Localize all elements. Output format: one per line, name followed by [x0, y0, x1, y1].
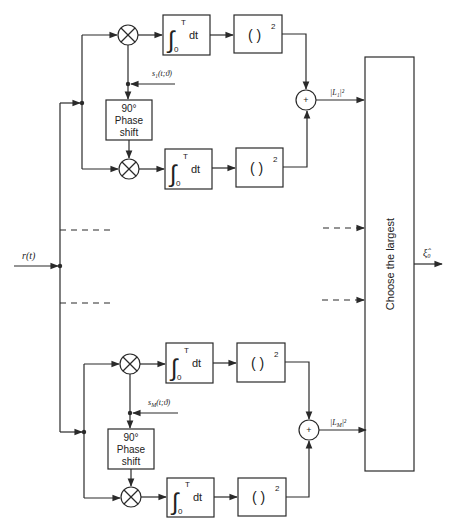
adder-symbol: + [306, 425, 311, 435]
integrator-label: ∫ T 0 dt [168, 152, 200, 188]
phase-shift-label: 90° Phase shift [115, 103, 144, 138]
svg-text:90°: 90° [121, 103, 136, 114]
receiver-block-diagram: + + r(t) ∫ T 0 dt ( ) 2 s₁(t;ϑ) 90° Phas… [0, 0, 453, 531]
square-label: ( ) 2 [251, 350, 279, 371]
phase-shift-label: 90° Phase shift [117, 432, 146, 467]
junction-dot [126, 82, 130, 86]
svg-text:( ): ( ) [248, 27, 261, 43]
svg-text:dt: dt [193, 491, 202, 503]
svg-text:0: 0 [178, 507, 183, 516]
decision-label: Choose the largest [384, 218, 396, 310]
branch-output-label: |L₁|² [330, 88, 345, 97]
svg-text:Phase: Phase [117, 444, 146, 455]
square-label: ( ) 2 [252, 484, 280, 505]
integrator-label: ∫ T 0 dt [170, 480, 202, 516]
branch-output-label: |LM|² [330, 418, 347, 428]
junction-dot [82, 430, 86, 434]
svg-text:( ): ( ) [250, 160, 263, 176]
input-label: r(t) [22, 250, 36, 262]
svg-text:T: T [183, 152, 188, 161]
multiplier-icon [121, 487, 141, 507]
junction-dot [80, 101, 84, 105]
svg-text:shift: shift [120, 127, 139, 138]
svg-text:( ): ( ) [252, 489, 265, 505]
svg-text:0: 0 [174, 45, 179, 54]
square-label: ( ) 2 [248, 22, 276, 43]
svg-text:2: 2 [271, 22, 276, 31]
svg-text:0: 0 [176, 179, 181, 188]
reference-signal-label: s₁(t;ϑ) [152, 69, 172, 78]
junction-dot [128, 411, 132, 415]
multiplier-icon [118, 25, 138, 45]
svg-text:dt: dt [192, 357, 201, 369]
output-label: ξ̂₀ [423, 247, 431, 259]
svg-text:2: 2 [274, 350, 279, 359]
svg-text:T: T [181, 18, 186, 27]
svg-text:0: 0 [177, 373, 182, 382]
svg-text:90°: 90° [123, 432, 138, 443]
svg-text:Phase: Phase [115, 115, 144, 126]
svg-text:T: T [185, 480, 190, 489]
square-label: ( ) 2 [250, 155, 278, 176]
svg-text:shift: shift [122, 456, 141, 467]
reference-signal-label: sM(t;ϑ) [148, 398, 171, 408]
integrator-label: ∫ T 0 dt [166, 18, 198, 54]
svg-text:dt: dt [189, 29, 198, 41]
multiplier-icon [119, 159, 139, 179]
svg-text:( ): ( ) [251, 355, 264, 371]
svg-text:T: T [184, 346, 189, 355]
svg-text:dt: dt [191, 163, 200, 175]
multiplier-icon [120, 354, 140, 374]
adder-symbol: + [303, 95, 308, 105]
ellipsis-dashes [60, 228, 364, 303]
svg-text:2: 2 [273, 155, 278, 164]
integrator-label: ∫ T 0 dt [169, 346, 201, 382]
junction-dot [58, 264, 62, 268]
svg-text:2: 2 [275, 484, 280, 493]
